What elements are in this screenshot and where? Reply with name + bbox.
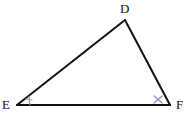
edge-d-f [125,20,170,105]
vertex-label-f: F [176,98,183,111]
vertex-label-e: E [2,98,10,111]
geometry-figure-canvas: D E F [0,0,190,116]
edge-e-d [17,20,125,105]
vertex-label-d: D [120,2,129,15]
triangle-drawing [0,0,190,116]
angle-mark-f [154,96,162,103]
